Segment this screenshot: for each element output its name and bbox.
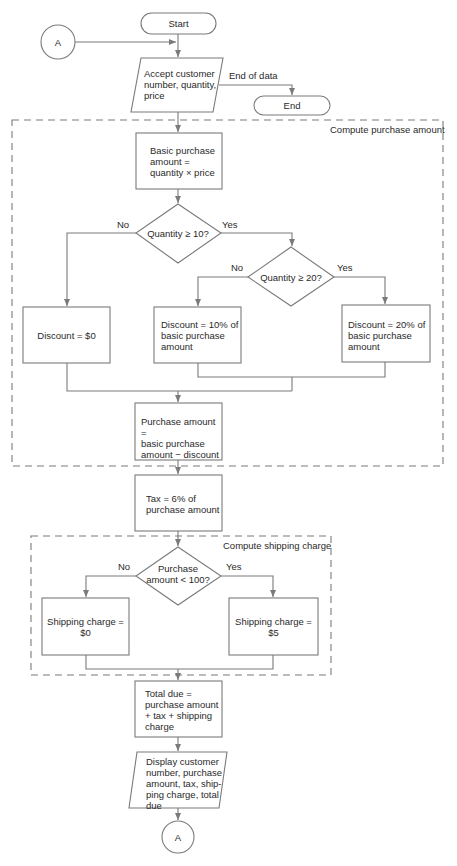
purchase-amount-label: Purchase amount = basic purchase amount … <box>141 416 223 460</box>
group-shipping-title: Compute shipping charge <box>223 540 331 551</box>
connector-a-top-label: A <box>48 37 68 48</box>
q20-no-label: No <box>231 262 243 273</box>
p100-text: Purchase amount < 100? <box>140 563 216 585</box>
shipping-0-label: Shipping charge = $0 <box>42 616 129 638</box>
p100-no-label: No <box>118 561 130 572</box>
end-of-data-label: End of data <box>229 70 278 81</box>
tax-label: Tax = 6% of purchase amount <box>146 493 222 515</box>
q10-text: Quantity ≥ 10? <box>140 228 216 239</box>
shipping-5-label: Shipping charge = $5 <box>229 616 318 638</box>
start-label: Start <box>141 18 216 29</box>
p100-yes-label: Yes <box>226 561 242 572</box>
q10-no-label: No <box>117 219 129 230</box>
input-label: Accept customer number, quantity, price <box>144 68 224 101</box>
discount-20-label: Discount = 20% of basic purchase amount <box>348 319 430 352</box>
group-shipping-boundary <box>31 536 331 675</box>
discount-0-label: Discount = $0 <box>23 330 110 341</box>
discount-10-label: Discount = 10% of basic purchase amount <box>161 319 241 352</box>
total-due-label: Total due = purchase amount + tax + ship… <box>145 688 223 732</box>
end-label: End <box>254 100 330 111</box>
connector-a-bottom-label: A <box>168 832 188 843</box>
group-purchase-boundary <box>12 120 443 466</box>
group-purchase-title: Compute purchase amount <box>330 124 445 135</box>
display-label: Display customer number, purchase amount… <box>146 756 226 811</box>
q10-yes-label: Yes <box>222 219 238 230</box>
q20-text: Quantity ≥ 20? <box>253 272 329 283</box>
basic-purchase-label: Basic purchase amount = quantity × price <box>150 145 222 178</box>
q20-yes-label: Yes <box>337 262 353 273</box>
